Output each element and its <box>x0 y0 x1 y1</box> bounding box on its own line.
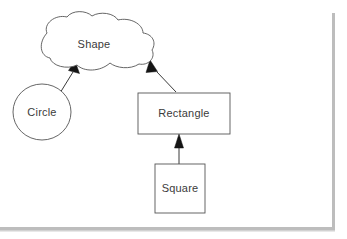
edge-square-to-rectangle-arrowhead <box>175 134 184 148</box>
edge-circle-to-shape-line <box>60 72 73 93</box>
frame-bottom-edge <box>0 227 335 230</box>
node-rectangle-label: Rectangle <box>158 107 209 119</box>
frame-right-edge <box>332 13 335 229</box>
diagram-canvas: Shape Circle Rectangle Square <box>0 0 347 239</box>
node-shape[interactable]: Shape <box>41 12 154 70</box>
node-circle[interactable]: Circle <box>13 84 71 140</box>
node-rectangle[interactable]: Rectangle <box>138 93 230 134</box>
node-square[interactable]: Square <box>155 164 205 213</box>
node-circle-label: Circle <box>27 106 56 118</box>
edge-rectangle-to-shape[interactable] <box>146 60 176 92</box>
node-shape-label: Shape <box>78 38 111 50</box>
edge-square-to-rectangle[interactable] <box>175 134 184 164</box>
node-square-label: Square <box>162 182 199 194</box>
diagram-svg: Shape Circle Rectangle Square <box>0 0 347 239</box>
edge-rectangle-to-shape-line <box>157 72 176 92</box>
frame-bottom-edge-shadow <box>0 230 335 232</box>
